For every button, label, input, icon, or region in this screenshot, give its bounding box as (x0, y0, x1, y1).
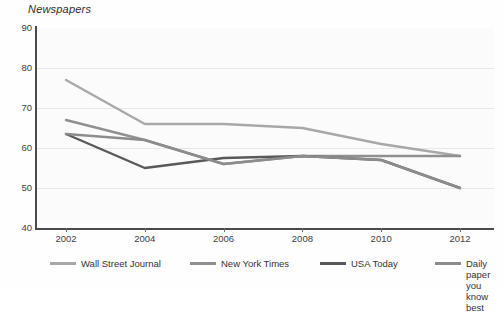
legend-color-swatch (435, 262, 461, 265)
y-axis-line (35, 26, 37, 230)
legend-color-swatch (190, 262, 216, 265)
x-axis-tick-label: 2006 (204, 234, 244, 244)
y-axis-tick-labels: 908070605040 (0, 0, 32, 288)
x-axis-tick-mark (145, 228, 146, 232)
chart-legend: Wall Street JournalNew York TimesUSA Tod… (50, 258, 500, 286)
legend-item[interactable]: New York Times (190, 258, 289, 269)
y-axis-tick-label: 90 (6, 23, 32, 33)
x-axis-tick-mark (381, 228, 382, 232)
y-axis-tick-label: 70 (6, 103, 32, 113)
x-axis-tick-mark (224, 228, 225, 232)
x-axis-tick-mark (66, 228, 67, 232)
gridline (36, 148, 494, 149)
legend-color-swatch (50, 262, 76, 265)
legend-label: Wall Street Journal (81, 258, 161, 269)
legend-item[interactable]: Wall Street Journal (50, 258, 161, 269)
x-axis-tick-label: 2002 (46, 234, 86, 244)
gridline (36, 108, 494, 109)
legend-item[interactable]: Daily paper you know best (435, 258, 500, 313)
legend-color-swatch (320, 262, 346, 265)
gridline (36, 68, 494, 69)
x-axis-tick-mark (460, 228, 461, 232)
x-axis-tick-label: 2008 (282, 234, 322, 244)
y-axis-tick-label: 60 (6, 143, 32, 153)
x-axis-tick-label: 2010 (361, 234, 401, 244)
gridline (36, 188, 494, 189)
x-axis-tick-mark (302, 228, 303, 232)
y-axis-tick-label: 40 (6, 223, 32, 233)
x-axis-line (35, 228, 494, 230)
plot-area (36, 28, 494, 228)
legend-label: Daily paper you know best (466, 258, 500, 313)
legend-item[interactable]: USA Today (320, 258, 398, 269)
legend-label: New York Times (221, 258, 289, 269)
legend-label: USA Today (351, 258, 398, 269)
x-axis-tick-label: 2012 (440, 234, 480, 244)
y-axis-tick-label: 50 (6, 183, 32, 193)
x-axis-tick-label: 2004 (125, 234, 165, 244)
chart-title: Newspapers (28, 3, 91, 15)
y-axis-tick-label: 80 (6, 63, 32, 73)
